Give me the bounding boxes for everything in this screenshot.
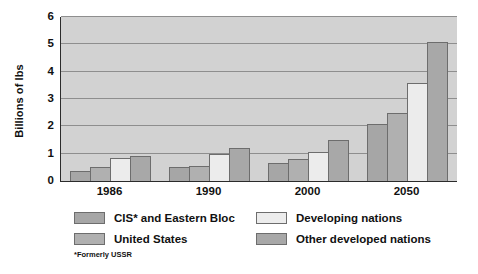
y-axis-tick-label: 0 [48, 175, 54, 187]
bar [130, 156, 151, 181]
y-axis-tick-label: 4 [48, 66, 54, 78]
y-axis-tick-labels: 0123456 [30, 17, 54, 181]
legend-swatch-icon [74, 233, 105, 245]
x-axis-tick-label: 2000 [258, 185, 357, 201]
legend-row: CIS* and Eastern BlocDeveloping nations [74, 207, 434, 228]
legend-swatch-icon [256, 212, 287, 224]
bar [110, 158, 131, 181]
bar [288, 159, 309, 181]
bar-group-1990 [160, 17, 259, 181]
bar [189, 166, 210, 181]
bar-chart-figure: Billions of lbs 0123456 1986199020002050… [0, 0, 478, 274]
legend-label: Developing nations [296, 212, 402, 224]
bar-group-1986 [61, 17, 160, 181]
legend-label: CIS* and Eastern Bloc [114, 212, 235, 224]
y-axis-title-text: Billions of lbs [13, 64, 25, 138]
y-axis-tick-label: 6 [48, 11, 54, 23]
bar [407, 83, 428, 181]
y-axis-tick-label: 5 [48, 39, 54, 51]
bar [229, 148, 250, 181]
legend-item[interactable]: Developing nations [256, 212, 402, 224]
bar-groups-container [61, 17, 457, 181]
y-axis-tick-label: 1 [48, 148, 54, 160]
bar [209, 154, 230, 181]
bar [387, 113, 408, 181]
legend-swatch-icon [74, 212, 105, 224]
legend-item[interactable]: Other developed nations [256, 233, 431, 245]
x-axis-tick-label: 2050 [357, 185, 456, 201]
legend-item[interactable]: United States [74, 233, 256, 245]
legend-row: United StatesOther developed nations [74, 228, 434, 249]
legend: CIS* and Eastern BlocDeveloping nationsU… [74, 207, 434, 249]
bar-group-2000 [259, 17, 358, 181]
legend-label: United States [114, 233, 188, 245]
footnote: *Formerly USSR [74, 250, 132, 259]
bar [367, 124, 388, 181]
bar-group-2050 [358, 17, 457, 181]
legend-label: Other developed nations [296, 233, 431, 245]
plot-area [60, 17, 457, 182]
bar [169, 167, 190, 181]
x-axis-tick-label: 1990 [159, 185, 258, 201]
bar [70, 171, 91, 181]
bar [308, 152, 329, 181]
bar [90, 167, 111, 181]
y-axis-tick-label: 2 [48, 121, 54, 133]
x-axis-tick-labels: 1986199020002050 [60, 185, 456, 201]
bar [427, 42, 448, 181]
bar [328, 140, 349, 181]
bar [268, 163, 289, 181]
y-axis-tick-label: 3 [48, 93, 54, 105]
legend-swatch-icon [256, 233, 287, 245]
x-axis-tick-label: 1986 [60, 185, 159, 201]
y-axis-title: Billions of lbs [10, 18, 28, 183]
legend-item[interactable]: CIS* and Eastern Bloc [74, 212, 256, 224]
